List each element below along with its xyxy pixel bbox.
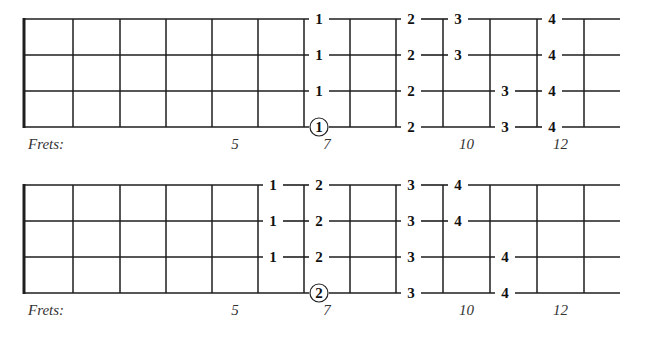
finger-number: 2: [315, 249, 323, 265]
finger-number: 4: [454, 213, 462, 229]
finger-number: 1: [315, 119, 323, 135]
finger-number: 3: [407, 285, 415, 301]
finger-number: 3: [454, 11, 462, 27]
finger-number: 2: [407, 83, 415, 99]
finger-number: 4: [548, 47, 556, 63]
diagram-2: 111222233334444Frets:571012: [24, 177, 620, 318]
fret-number: 10: [459, 302, 475, 318]
finger-number: 1: [315, 11, 323, 27]
finger-number: 4: [501, 249, 509, 265]
finger-number: 3: [407, 213, 415, 229]
fret-number: 7: [323, 136, 332, 152]
fret-number: 12: [553, 302, 569, 318]
fret-number: 5: [231, 302, 239, 318]
finger-number: 2: [407, 47, 415, 63]
finger-number: 1: [315, 47, 323, 63]
fret-number: 10: [459, 136, 475, 152]
frets-label: Frets:: [27, 136, 64, 152]
finger-number: 3: [407, 177, 415, 193]
fret-number: 7: [323, 302, 332, 318]
finger-number: 1: [269, 249, 277, 265]
finger-number: 3: [407, 249, 415, 265]
finger-number: 4: [454, 177, 462, 193]
finger-number: 3: [501, 119, 509, 135]
finger-number: 1: [315, 83, 323, 99]
finger-number: 2: [315, 285, 323, 301]
finger-number: 3: [454, 47, 462, 63]
finger-number: 4: [548, 119, 556, 135]
finger-number: 1: [269, 177, 277, 193]
fret-number: 5: [231, 136, 239, 152]
diagram-1: 1111222233334444Frets:571012: [24, 11, 620, 152]
finger-number: 2: [315, 213, 323, 229]
frets-label: Frets:: [27, 302, 64, 318]
finger-number: 4: [548, 83, 556, 99]
fretboard-diagrams: 1111222233334444Frets:571012111222233334…: [0, 0, 660, 342]
finger-number: 2: [407, 11, 415, 27]
finger-number: 1: [269, 213, 277, 229]
finger-number: 4: [501, 285, 509, 301]
fret-number: 12: [553, 136, 569, 152]
finger-number: 4: [548, 11, 556, 27]
finger-number: 2: [315, 177, 323, 193]
finger-number: 3: [501, 83, 509, 99]
finger-number: 2: [407, 119, 415, 135]
